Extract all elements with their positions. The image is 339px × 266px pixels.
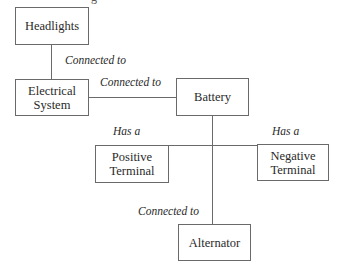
node-label: Negative Terminal — [270, 149, 315, 177]
node-label: Headlights — [25, 19, 79, 33]
node-positive-terminal: Positive Terminal — [95, 145, 169, 183]
connector-electrical-battery — [88, 97, 176, 98]
node-label: Battery — [194, 90, 231, 104]
connector-headlights-electrical — [51, 44, 52, 79]
edge-label-battery-positive: Has a — [113, 125, 140, 137]
edge-label-headlights-electrical: Connected to — [65, 54, 126, 66]
caption-fragment: g — [91, 0, 97, 5]
connector-battery-alternator — [212, 115, 213, 224]
node-label: Positive Terminal — [110, 150, 155, 178]
node-negative-terminal: Negative Terminal — [257, 144, 329, 181]
edge-label-battery-negative: Has a — [272, 125, 299, 137]
node-label: Electrical System — [28, 84, 76, 112]
node-label: Alternator — [189, 236, 240, 250]
node-electrical-system: Electrical System — [15, 79, 89, 116]
node-battery: Battery — [176, 78, 249, 116]
edge-label-battery-alternator: Connected to — [138, 205, 199, 217]
edge-label-electrical-battery: Connected to — [100, 76, 161, 88]
node-headlights: Headlights — [15, 7, 89, 45]
node-alternator: Alternator — [178, 224, 251, 261]
